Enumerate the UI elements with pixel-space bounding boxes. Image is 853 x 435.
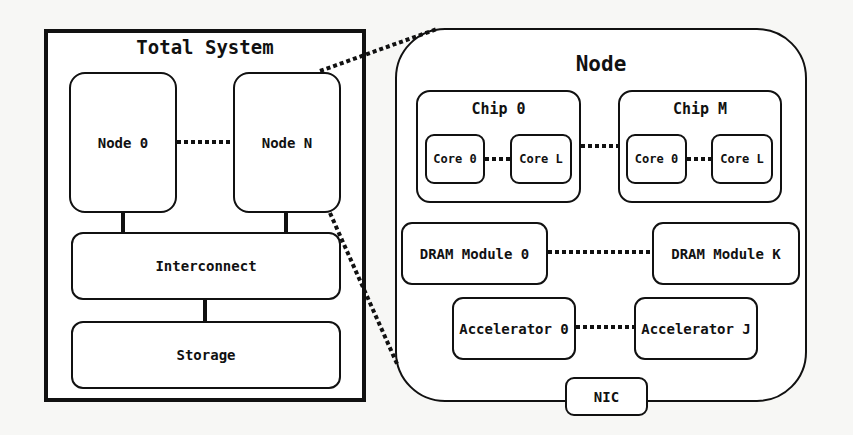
chip-m-label: Chip M xyxy=(620,100,780,118)
interconnect-box: Interconnect xyxy=(71,232,341,300)
chip-0-core-l: Core L xyxy=(510,134,572,184)
accelerator-0: Accelerator 0 xyxy=(452,297,576,360)
storage-box: Storage xyxy=(71,321,341,389)
chip-0-core-0: Core 0 xyxy=(425,134,485,184)
node-n-box: Node N xyxy=(233,72,341,213)
chip-0-label: Chip 0 xyxy=(418,100,579,118)
nic-box: NIC xyxy=(565,377,648,416)
chip-m-core-l: Core L xyxy=(711,134,773,184)
node-detail-title: Node xyxy=(395,52,807,76)
accelerator-j: Accelerator J xyxy=(634,297,758,360)
dram-module-0: DRAM Module 0 xyxy=(401,222,548,285)
chip-m-core-0: Core 0 xyxy=(626,134,687,184)
node-0-box: Node 0 xyxy=(69,72,177,213)
total-system-title: Total System xyxy=(44,36,366,58)
dram-module-k: DRAM Module K xyxy=(652,222,800,285)
